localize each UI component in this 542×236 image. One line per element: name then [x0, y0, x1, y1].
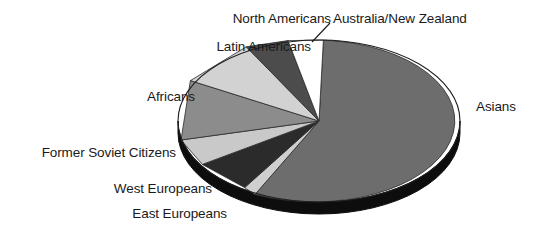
- pie-slices: [181, 40, 455, 202]
- pie-chart-figure: North Americans Australia/New Zealand La…: [0, 0, 542, 236]
- label-former-soviet-citizens: Former Soviet Citizens: [42, 146, 176, 160]
- label-africans: Africans: [147, 90, 195, 104]
- label-north-americans: North Americans: [233, 12, 331, 26]
- label-east-europeans: East Europeans: [132, 207, 227, 221]
- label-asians: Asians: [476, 100, 516, 114]
- pie-chart-graphic: [0, 0, 542, 236]
- label-latin-americans: Latin Americans: [216, 40, 311, 54]
- label-australia-new-zealand: Australia/New Zealand: [333, 12, 467, 26]
- label-west-europeans: West Europeans: [114, 182, 212, 196]
